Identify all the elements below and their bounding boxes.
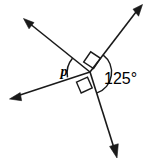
angle-measure-label: 125° bbox=[104, 70, 137, 87]
ray-lower-left-arrow-icon bbox=[10, 93, 22, 101]
ray-upper-left-arrow-icon bbox=[24, 19, 35, 29]
angle-label-p: p bbox=[60, 64, 68, 79]
angle-diagram-figure: p 125° bbox=[0, 0, 147, 163]
right-angle-mark-lower bbox=[77, 77, 93, 93]
ray-upper-left bbox=[24, 19, 91, 73]
ray-lower-left-line bbox=[17, 72, 90, 96]
right-angle-mark-upper bbox=[84, 52, 101, 69]
ray-upper-left-line bbox=[29, 23, 90, 72]
angle-diagram-canvas: p 125° bbox=[0, 0, 147, 163]
arc-angle-p bbox=[67, 58, 72, 77]
ray-lower-right-arrow-icon bbox=[110, 144, 119, 158]
